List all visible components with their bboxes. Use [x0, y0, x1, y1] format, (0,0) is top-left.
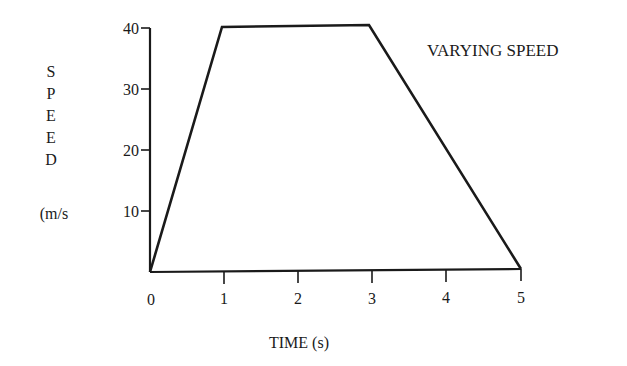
y-label-letter: E: [46, 129, 56, 146]
chart-title: VARYING SPEED: [427, 41, 558, 60]
y-tick-label: 20: [123, 142, 139, 159]
x-tick-label: 3: [368, 290, 376, 307]
x-tick-label: 1: [220, 290, 228, 307]
y-ticks: [141, 28, 150, 211]
speed-line: [150, 25, 521, 272]
y-tick-label: 40: [123, 20, 139, 37]
x-tick-label: 2: [294, 290, 302, 307]
y-axis-label: S P E E D (m/s: [40, 63, 68, 223]
x-tick-label: 0: [147, 291, 155, 308]
x-tick-label: 4: [442, 289, 450, 306]
x-axis-label: TIME (s): [269, 334, 329, 352]
y-tick-labels: 40 30 20 10: [123, 20, 139, 220]
y-label-letter: E: [46, 107, 56, 124]
y-label-letter: D: [45, 151, 57, 168]
x-tick-labels: 0 1 2 3 4 5: [147, 289, 525, 308]
y-tick-label: 30: [123, 81, 139, 98]
x-tick-label: 5: [517, 289, 525, 306]
y-label-letter: S: [47, 63, 56, 80]
x-axis: [150, 269, 521, 272]
y-label-letter: P: [47, 85, 56, 102]
y-label-unit: (m/s: [40, 205, 68, 223]
y-tick-label: 10: [123, 203, 139, 220]
speed-time-chart: 40 30 20 10 0 1 2 3 4 5 S P E E D (m/s T…: [0, 0, 627, 366]
